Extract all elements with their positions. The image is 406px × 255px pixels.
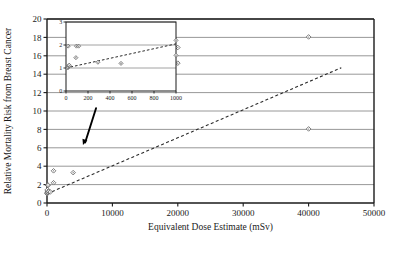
x-axis-title: Equivalent Dose Estimate (mSv): [148, 222, 273, 233]
inset-x-tick-label-0: 0: [65, 95, 68, 101]
inset-x-tick-label-1000: 1000: [170, 95, 182, 101]
data-point-12-center: [53, 170, 54, 171]
data-point-8-center: [47, 185, 48, 186]
y-tick-label-8: 8: [37, 125, 42, 135]
y-tick-label-2: 2: [37, 180, 42, 190]
data-point-15-center: [177, 47, 178, 48]
y-tick-label-16: 16: [33, 51, 43, 61]
x-axis-ticks: 01000020000300004000050000: [45, 203, 386, 218]
y-tick-label-6: 6: [37, 143, 42, 153]
inset-data-point-10-center: [175, 40, 176, 41]
inset-y-tick-label-3: 3: [59, 19, 62, 25]
scatter-chart-svg: 0246810121416182001000020000300004000050…: [0, 0, 406, 255]
inset-data-point-11-center: [175, 55, 176, 56]
inset-data-point-7-center: [75, 57, 76, 58]
x-tick-label-0: 0: [45, 208, 50, 218]
x-tick-label-40000: 40000: [297, 208, 320, 218]
y-tick-label-20: 20: [33, 14, 43, 24]
inset-data-point-6-center: [78, 46, 79, 47]
data-point-13-center: [73, 172, 74, 173]
data-point-16-center: [308, 128, 309, 129]
inset-data-point-3-center: [69, 65, 70, 66]
y-tick-label-14: 14: [33, 69, 43, 79]
inset-x-tick-label-200: 200: [84, 95, 93, 101]
y-tick-label-10: 10: [33, 106, 43, 116]
x-tick-label-10000: 10000: [101, 208, 124, 218]
chart-canvas: 0246810121416182001000020000300004000050…: [0, 0, 406, 255]
inset-y-tick-label-1: 1: [59, 65, 62, 71]
inset-x-tick-label-600: 600: [128, 95, 137, 101]
y-tick-label-4: 4: [37, 161, 42, 171]
inset-data-point-4-center: [68, 46, 69, 47]
data-point-17-center: [308, 36, 309, 37]
inset-y-tick-label-2: 2: [59, 42, 62, 48]
inset-background: [66, 22, 176, 91]
y-axis-ticks: 02468101214161820: [33, 14, 48, 208]
inset-callout-arrow-shaft: [85, 108, 96, 142]
x-tick-label-50000: 50000: [363, 208, 386, 218]
y-axis-title: Relative Mortality Risk from Breast Canc…: [3, 27, 13, 194]
inset-x-tick-label-400: 400: [106, 95, 115, 101]
x-tick-label-30000: 30000: [232, 208, 255, 218]
data-point-14-center: [177, 63, 178, 64]
figure-container: 0246810121416182001000020000300004000050…: [0, 0, 406, 255]
x-tick-label-20000: 20000: [167, 208, 190, 218]
data-point-11-center: [53, 182, 54, 183]
y-tick-label-18: 18: [33, 33, 43, 43]
y-tick-label-12: 12: [33, 88, 42, 98]
inset-x-tick-label-800: 800: [150, 95, 159, 101]
inset-y-ticks: 0123: [59, 19, 66, 94]
inset-data-point-9-center: [120, 63, 121, 64]
annotations: [82, 108, 96, 145]
data-point-10-center: [50, 191, 51, 192]
inset-data-point-8-center: [97, 62, 98, 63]
inset-plot: 012302004006008001000: [59, 19, 182, 101]
inset-y-tick-label-0: 0: [59, 88, 62, 94]
y-tick-label-0: 0: [37, 198, 42, 208]
